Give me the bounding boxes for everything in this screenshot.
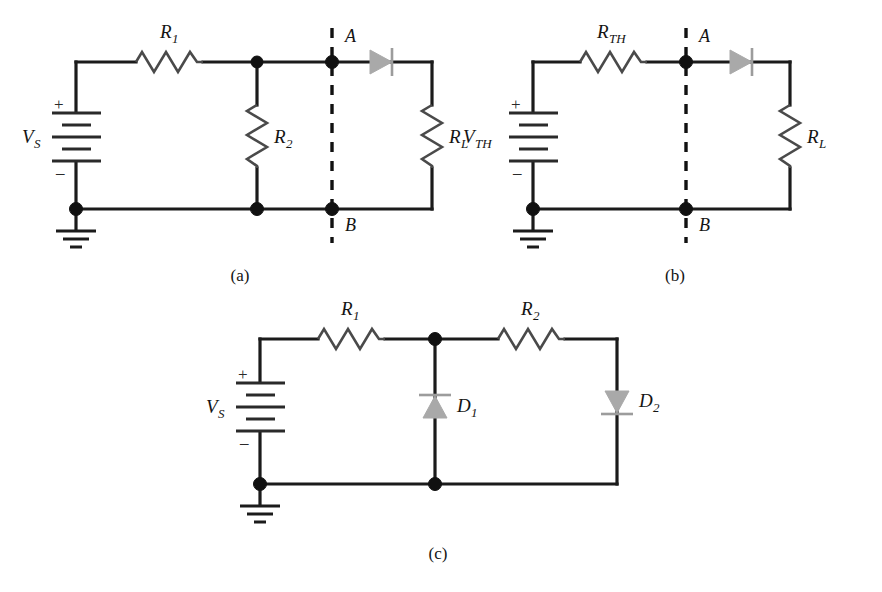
node-dot-b-terminal-b (680, 203, 693, 216)
voltage-source-vs-subscript: S (34, 136, 41, 151)
diode-a (370, 48, 392, 76)
node-dot-b-terminal-a (680, 56, 693, 69)
node-dot-a-terminal-b (326, 203, 339, 216)
node-dot-c-bottom-mid (429, 478, 442, 491)
resistor-rth (580, 52, 647, 72)
terminal-a-label-panel-b: A (698, 26, 711, 46)
resistor-r2 (247, 105, 267, 168)
node-dot-a-bottom-left (70, 203, 83, 216)
diode-b (730, 48, 752, 76)
resistor-c-r2 (498, 329, 565, 349)
voltage-source-vth-subscript: TH (475, 136, 492, 151)
resistor-c-r1 (318, 329, 385, 349)
polarity-minus-c: – (239, 433, 249, 452)
resistor-c-r2-subscript: 2 (533, 308, 540, 323)
diode-d2-label: D (638, 390, 653, 411)
resistor-r1 (136, 52, 203, 72)
node-dot-c-top-mid (429, 333, 442, 346)
panel-c: R 1 R 2 V S + – D (206, 298, 660, 563)
node-dot-a-terminal-a (326, 56, 339, 69)
voltage-source-vth (509, 113, 558, 161)
resistor-r1-label: R (159, 21, 172, 42)
node-dot-a-bottom-mid (251, 203, 264, 216)
resistor-rth-subscript: TH (609, 31, 626, 46)
terminal-b-label-panel-b: B (699, 215, 710, 235)
caption-panel-b: (b) (665, 266, 685, 285)
resistor-r1-subscript: 1 (172, 31, 179, 46)
voltage-source-vs-c-subscript: S (218, 406, 225, 421)
resistor-r2-label: R (273, 126, 286, 147)
terminal-b-label-panel-a: B (345, 215, 356, 235)
polarity-minus-b: – (512, 163, 522, 182)
panel-b: R TH R L V TH + – (463, 21, 826, 285)
caption-panel-a: (a) (231, 266, 250, 285)
diode-d1 (419, 395, 451, 418)
resistor-b-rl-subscript: L (818, 136, 826, 151)
circuit-diagram-canvas: R 1 R 2 R L V S + – (0, 0, 882, 592)
panel-a: R 1 R 2 R L V S + – (22, 21, 468, 285)
polarity-plus-c: + (238, 365, 248, 384)
resistor-c-r1-subscript: 1 (353, 308, 360, 323)
resistor-c-r1-label: R (340, 298, 353, 319)
polarity-minus-a: – (55, 163, 65, 182)
caption-panel-c: (c) (429, 544, 448, 563)
diode-d1-label: D (456, 395, 471, 416)
node-dot-a-top-mid (251, 56, 263, 68)
voltage-source-vs-c (236, 383, 285, 431)
resistor-b-rl-label: R (806, 126, 819, 147)
node-dot-b-bottom-left (527, 203, 540, 216)
resistor-c-r2-label: R (520, 298, 533, 319)
node-dot-c-bottom-left (254, 478, 267, 491)
resistor-rth-label: R (596, 21, 609, 42)
diode-d2-subscript: 2 (653, 400, 660, 415)
diode-d2 (601, 391, 633, 414)
terminal-a-label-panel-a: A (344, 26, 357, 46)
voltage-source-vs (52, 113, 101, 161)
resistor-b-rl (780, 105, 800, 168)
resistor-a-rl (422, 105, 442, 168)
resistor-a-rl-label: R (448, 126, 461, 147)
polarity-plus-b: + (511, 95, 521, 114)
resistor-r2-subscript: 2 (286, 136, 293, 151)
polarity-plus-a: + (54, 95, 64, 114)
figure-root: R 1 R 2 R L V S + – (0, 0, 882, 592)
diode-d1-subscript: 1 (471, 405, 478, 420)
